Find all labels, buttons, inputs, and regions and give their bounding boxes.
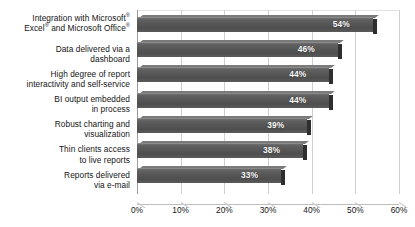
bar-value-label: 44%	[289, 69, 306, 80]
x-tick-label: 60%	[391, 205, 408, 215]
bar-chart: Integration with Microsoft®Excel® and Mi…	[0, 0, 415, 227]
x-tick-label: 0%	[131, 205, 143, 215]
bar-row: 44%	[137, 67, 334, 84]
bar-row: 33%	[137, 168, 286, 185]
plot-area: 54%46%44%44%39%38%33%	[137, 8, 415, 200]
category-label: Reports deliveredvia e-mail	[0, 170, 130, 190]
category-label: Thin clients accessto live reports	[0, 144, 130, 164]
clipped-title-remnant	[0, 0, 415, 7]
bar-side-face	[281, 170, 285, 185]
category-label: Integration with Microsoft®Excel® and Mi…	[0, 13, 130, 33]
bar-value-label: 54%	[333, 19, 350, 30]
bar-value-label: 46%	[298, 44, 315, 55]
bar	[137, 168, 281, 183]
bar-value-label: 33%	[241, 170, 258, 181]
bar-row: 44%	[137, 93, 334, 110]
bar-side-face	[307, 120, 311, 135]
category-label: BI output embeddedin process	[0, 94, 130, 114]
bar-row: 38%	[137, 143, 308, 160]
category-label: Data delivered via adashboard	[0, 44, 130, 64]
x-tick-label: 10%	[172, 205, 189, 215]
bar-side-face	[329, 95, 333, 110]
x-tick-label: 50%	[347, 205, 364, 215]
gridline-50	[355, 10, 356, 194]
bar-value-label: 38%	[263, 145, 280, 156]
bar-row: 39%	[137, 118, 312, 135]
bar-value-label: 44%	[289, 95, 306, 106]
bar-side-face	[303, 145, 307, 160]
bar-side-face	[338, 44, 342, 59]
bar-row: 46%	[137, 42, 343, 59]
x-tick-label: 40%	[303, 205, 320, 215]
bar-side-face	[373, 19, 377, 34]
x-axis-tick-labels: 0%10%20%30%40%50%60%	[137, 205, 415, 221]
bar-value-label: 39%	[267, 120, 284, 131]
x-tick-label: 20%	[216, 205, 233, 215]
category-axis-labels: Integration with Microsoft®Excel® and Mi…	[0, 11, 134, 196]
bar-side-face	[329, 69, 333, 84]
gridline-60	[399, 10, 400, 194]
category-label: Robust charting andvisualization	[0, 119, 130, 139]
category-label: High degree of reportinteractivity and s…	[0, 69, 130, 89]
x-tick-label: 30%	[260, 205, 277, 215]
bar-row: 54%	[137, 17, 378, 34]
